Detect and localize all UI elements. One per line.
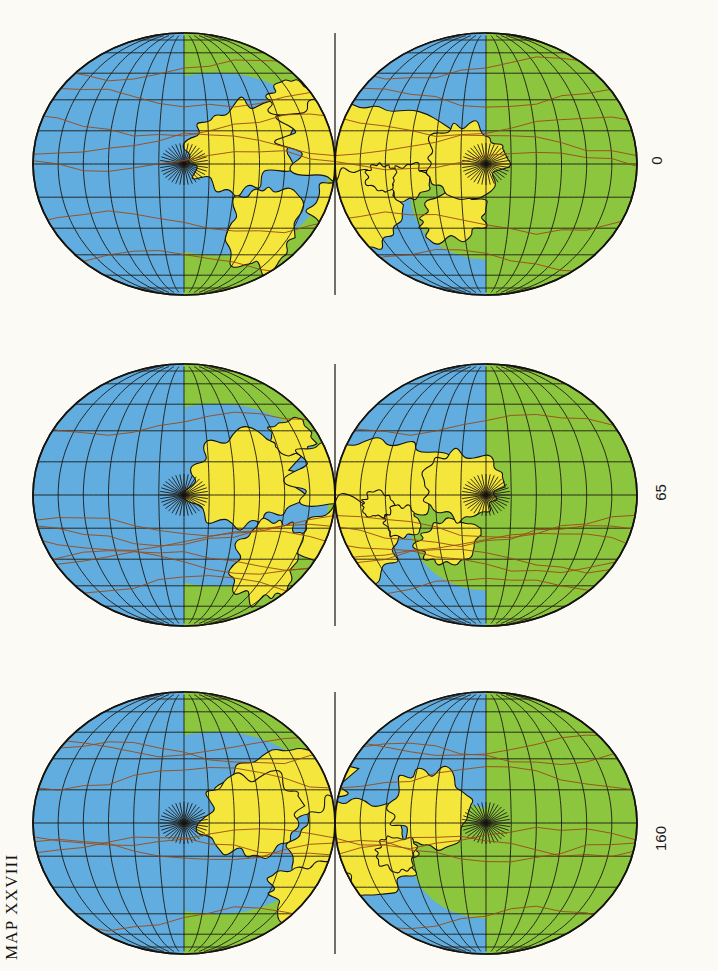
age-label-65: 65 (652, 484, 669, 501)
pole-point (484, 162, 488, 166)
landmass-south-america (225, 187, 303, 277)
pole-point (182, 493, 186, 497)
pole-point (182, 821, 186, 825)
age-label-0: 0 (648, 156, 665, 164)
pole-point (484, 821, 488, 825)
pole-point (182, 162, 186, 166)
map-plate (0, 0, 718, 971)
globe-map-160ma (30, 689, 640, 957)
age-label-160: 160 (652, 826, 669, 851)
globe-map-65ma (30, 361, 640, 629)
plate-label: MAP XXVIII (2, 854, 22, 960)
pole-point (484, 493, 488, 497)
globe-map-0ma (30, 30, 640, 298)
